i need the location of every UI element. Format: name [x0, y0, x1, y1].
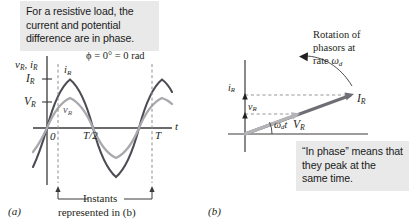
angle-label-omega: ω — [274, 119, 281, 130]
panel-letter-b: (b) — [208, 205, 221, 217]
rotation-note-line3: rate ωd — [313, 55, 361, 68]
rotation-note-omega-sub: d — [339, 59, 343, 67]
rotation-note-line2: phasors at — [313, 42, 361, 55]
projection-label-vR-sub: R — [252, 105, 256, 112]
projection-label-vR: vR — [248, 101, 257, 112]
angle-label-omega-d-t: ωdt — [274, 119, 287, 130]
projection-marker-vR — [242, 112, 248, 119]
rotation-note-omega: ω — [331, 55, 338, 66]
phasor-label-VR-main: V — [293, 118, 300, 130]
phasor-arrowhead-IR — [345, 93, 355, 101]
phasor-label-IR: IR — [357, 92, 366, 106]
rotation-arrowhead — [299, 52, 308, 61]
phasor-label-VR-sub: R — [300, 123, 305, 132]
rotation-note-line1: Rotation of — [313, 29, 361, 42]
projection-marker-iR — [242, 93, 248, 100]
phasor-label-VR: VR — [293, 118, 305, 132]
projection-label-iR-sub: R — [231, 86, 235, 93]
projection-label-iR: iR — [228, 82, 235, 93]
phasor-label-IR-sub: R — [361, 97, 366, 106]
angle-label-t: t — [284, 119, 287, 130]
rotation-note-rate: rate — [313, 55, 331, 66]
rotation-note: Rotation of phasors at rate ωd — [313, 29, 361, 68]
